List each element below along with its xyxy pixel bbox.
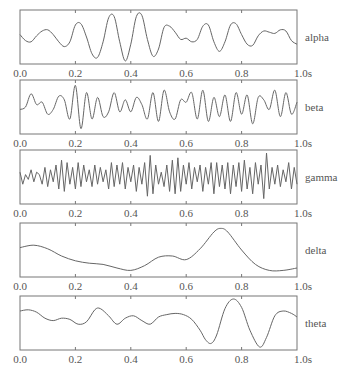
x-tick-label: 0.4 <box>124 67 138 79</box>
x-tick-label: 0.4 <box>124 353 138 365</box>
band-waveform-figure: 0.00.20.40.60.81.0salpha 0.00.20.40.60.8… <box>0 0 350 377</box>
band-label: alpha <box>305 31 329 43</box>
x-tick-label: 1.0s <box>294 353 312 365</box>
x-tick-label: 0.6 <box>179 137 193 149</box>
x-tick-label: 0.8 <box>235 280 249 292</box>
x-tick-label: 0.2 <box>69 67 83 79</box>
panel-gamma: 0.00.20.40.60.81.0sgamma <box>13 150 337 219</box>
x-tick-label: 0.2 <box>69 280 83 292</box>
plot-frame <box>20 150 297 204</box>
x-tick-label: 0.6 <box>179 207 193 219</box>
panel-alpha: 0.00.20.40.60.81.0salpha <box>13 10 329 79</box>
x-tick-label: 0.0 <box>13 353 27 365</box>
band-label: beta <box>305 101 323 113</box>
x-tick-label: 0.4 <box>124 207 138 219</box>
waveform-line-theta <box>20 299 297 347</box>
x-tick-label: 0.0 <box>13 137 27 149</box>
panel-theta: 0.00.20.40.60.81.0stheta <box>13 296 326 365</box>
x-tick-label: 0.8 <box>235 207 249 219</box>
x-tick-label: 0.8 <box>235 137 249 149</box>
band-label: delta <box>305 244 326 256</box>
waveform-line-alpha <box>20 13 297 61</box>
x-tick-label: 0.6 <box>179 67 193 79</box>
waveform-line-beta <box>20 85 297 128</box>
x-tick-label: 0.0 <box>13 280 27 292</box>
x-tick-label: 0.4 <box>124 137 138 149</box>
band-label: theta <box>305 317 326 329</box>
band-label: gamma <box>305 171 337 183</box>
x-tick-label: 1.0s <box>294 280 312 292</box>
plot-frame <box>20 80 297 134</box>
x-tick-label: 0.2 <box>69 207 83 219</box>
x-tick-label: 0.8 <box>235 67 249 79</box>
x-tick-label: 0.2 <box>69 353 83 365</box>
panel-delta: 0.00.20.40.60.81.0sdelta <box>13 223 326 292</box>
waveform-line-gamma <box>20 153 297 199</box>
x-tick-label: 0.0 <box>13 67 27 79</box>
x-tick-label: 1.0s <box>294 207 312 219</box>
waveform-line-delta <box>20 228 297 271</box>
x-tick-label: 0.4 <box>124 280 138 292</box>
panel-beta: 0.00.20.40.60.81.0sbeta <box>13 80 323 149</box>
x-tick-label: 0.2 <box>69 137 83 149</box>
plot-frame <box>20 10 297 64</box>
x-tick-label: 1.0s <box>294 67 312 79</box>
x-tick-label: 1.0s <box>294 137 312 149</box>
plot-frame <box>20 223 297 277</box>
x-tick-label: 0.6 <box>179 353 193 365</box>
x-tick-label: 0.0 <box>13 207 27 219</box>
x-tick-label: 0.6 <box>179 280 193 292</box>
x-tick-label: 0.8 <box>235 353 249 365</box>
